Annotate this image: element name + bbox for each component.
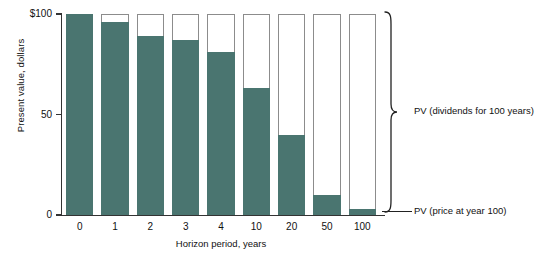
bar-segment-dividends [313, 14, 341, 215]
bar-segment-price [349, 209, 377, 215]
bar-segment-price [172, 40, 200, 215]
bar-segment-price [207, 52, 235, 215]
x-tick-label: 50 [307, 221, 347, 232]
bar-column [101, 14, 129, 215]
bar-column [137, 14, 165, 215]
bar-segment-price [278, 135, 306, 215]
x-tick-label: 4 [201, 221, 241, 232]
x-tick-label: 0 [60, 221, 100, 232]
bar-column [278, 14, 306, 215]
bar-column [66, 14, 94, 215]
y-tick-mark [56, 114, 61, 115]
bar-segment-dividends [349, 14, 377, 215]
bar-segment-price [313, 195, 341, 215]
y-axis-title: Present value, dollars [15, 26, 26, 146]
bar-segment-price [243, 88, 271, 215]
y-tick-label: 50 [0, 109, 52, 120]
bar-column [172, 14, 200, 215]
annotation-pv-dividends: PV (dividends for 100 years) [414, 105, 534, 116]
x-tick-label: 10 [236, 221, 276, 232]
y-tick-label: 0 [0, 209, 52, 220]
x-tick-label: 2 [130, 221, 170, 232]
x-tick-label: 1 [95, 221, 135, 232]
bar-column [313, 14, 341, 215]
y-tick-label: $100 [0, 8, 52, 19]
bar-series [62, 14, 380, 215]
bar-chart: Present value, dollars 050$100 012341020… [0, 0, 546, 258]
annotation-pv-price: PV (price at year 100) [414, 205, 506, 216]
y-tick-mark [56, 214, 61, 215]
y-tick-mark [56, 13, 61, 14]
bar-segment-price [137, 36, 165, 215]
bar-column [349, 14, 377, 215]
x-axis-title: Horizon period, years [62, 238, 380, 249]
bar-segment-price [101, 22, 129, 215]
x-tick-label: 100 [342, 221, 382, 232]
bar-segment-price [66, 14, 94, 215]
leader-line-pv-price [382, 211, 412, 212]
bar-column [243, 14, 271, 215]
x-tick-label: 3 [166, 221, 206, 232]
x-tick-label: 20 [272, 221, 312, 232]
brace-icon [382, 8, 410, 220]
bar-column [207, 14, 235, 215]
plot-area [62, 14, 380, 215]
